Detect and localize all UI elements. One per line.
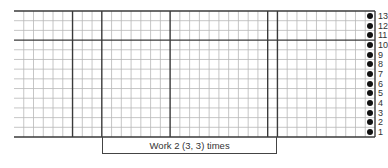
row-label: 10 — [378, 40, 388, 50]
stitch-dot — [367, 42, 373, 48]
stitch-dot — [367, 13, 373, 19]
stitch-dot — [367, 110, 373, 116]
row-label: 3 — [378, 108, 383, 118]
row-label: 13 — [378, 11, 388, 21]
row-label: 12 — [378, 21, 388, 31]
row-label: 11 — [378, 30, 387, 40]
stitch-dot — [367, 23, 373, 29]
row-label: 5 — [378, 88, 383, 98]
row-label: 7 — [378, 69, 383, 79]
row-label: 4 — [378, 98, 383, 108]
repeat-label: Work 2 (3, 3) times — [150, 140, 230, 151]
row-label: 6 — [378, 79, 383, 89]
stitch-dot — [367, 81, 373, 87]
row-label: 9 — [378, 50, 383, 60]
row-label: 8 — [378, 59, 383, 69]
row-label: 2 — [378, 117, 383, 127]
repeat-box: Work 2 (3, 3) times — [102, 137, 278, 154]
row-label: 1 — [378, 127, 383, 137]
stitch-dot — [367, 52, 373, 58]
